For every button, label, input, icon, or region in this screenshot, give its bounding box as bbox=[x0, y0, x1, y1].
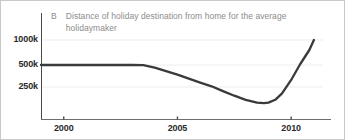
y-tick-label-250k: 250k bbox=[18, 81, 38, 91]
x-tick-label-2005: 2005 bbox=[168, 123, 188, 133]
chart-plot-area bbox=[1, 1, 345, 140]
y-tick-label-500k: 500k bbox=[18, 59, 38, 69]
y-tick-label-1000k: 1000k bbox=[13, 34, 38, 44]
line-series-distance bbox=[41, 40, 314, 103]
x-tick-label-2010: 2010 bbox=[281, 123, 301, 133]
x-tick-label-2000: 2000 bbox=[54, 123, 74, 133]
chart-panel-b: B Distance of holiday destination from h… bbox=[0, 0, 345, 140]
